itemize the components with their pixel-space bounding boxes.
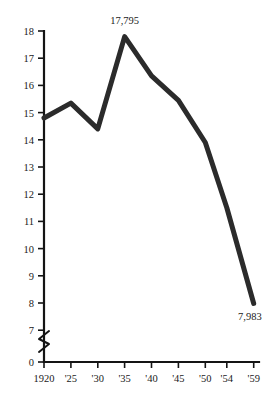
y-axis-label-0: 0 (29, 357, 34, 368)
x-axis-label-54: '54 (221, 373, 234, 384)
x-axis-label-59: '59 (247, 373, 259, 384)
end-value-annotation: 7,983 (238, 311, 262, 322)
y-axis-label-9: 9 (29, 271, 34, 282)
y-axis-label-15: 15 (24, 108, 35, 119)
x-axis-label-50: '50 (199, 373, 211, 384)
y-axis-label-10: 10 (24, 244, 35, 255)
y-axis-label-16: 16 (24, 80, 35, 91)
y-axis-label-18: 18 (24, 26, 35, 37)
x-axis-label-1920: 1920 (34, 373, 55, 384)
x-axis-label-30: '30 (92, 373, 104, 384)
x-axis-labels: 1920 '25 '30 '35 '40 '45 '50 '54 '59 (34, 373, 260, 384)
y-axis-label-7: 7 (29, 325, 34, 336)
chart-container: 18 17 16 15 14 13 12 11 10 9 8 7 0 1920 … (0, 0, 275, 393)
y-axis-label-8: 8 (29, 298, 34, 309)
y-axis-label-11: 11 (24, 216, 34, 227)
peak-value-annotation: 17,795 (110, 15, 139, 26)
line-chart: 18 17 16 15 14 13 12 11 10 9 8 7 0 1920 … (0, 0, 275, 393)
x-axis-label-35: '35 (118, 373, 130, 384)
x-axis-label-45: '45 (172, 373, 184, 384)
y-axis-label-17: 17 (24, 53, 35, 64)
x-axis-label-40: '40 (145, 373, 157, 384)
y-axis-label-13: 13 (24, 162, 35, 173)
y-axis-label-12: 12 (24, 189, 35, 200)
y-axis-label-14: 14 (24, 135, 35, 146)
x-axis-label-25: '25 (65, 373, 77, 384)
